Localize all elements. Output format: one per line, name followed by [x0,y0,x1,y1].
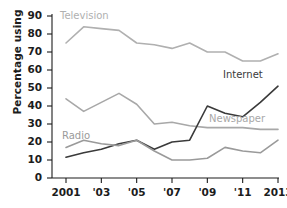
x-tick-label: '11 [223,186,263,198]
y-tick-label: 10 [20,153,42,165]
line-chart: Percentage using 9080706050403020100 200… [0,0,287,208]
axis-lines [52,14,279,178]
series-line-television [66,27,278,61]
x-tick-label: '03 [81,186,121,198]
y-tick-label: 50 [20,81,42,93]
plot-area [0,0,287,208]
series-label-internet: Internet [223,69,263,80]
x-tick-label: 2001 [46,186,86,198]
y-axis-ticks [47,16,52,178]
x-tick-label: '09 [187,186,227,198]
x-tick-label: '05 [117,186,157,198]
y-tick-label: 20 [20,135,42,147]
series-label-television: Television [60,10,109,21]
y-tick-label: 60 [20,63,42,75]
series-label-newspaper: Newspaper [209,113,265,124]
y-tick-label: 70 [20,45,42,57]
y-tick-label: 30 [20,117,42,129]
y-tick-label: 40 [20,99,42,111]
y-tick-label: 80 [20,27,42,39]
x-tick-label: 2013 [258,186,287,198]
x-axis-ticks [66,178,278,183]
y-tick-label: 90 [20,9,42,21]
x-tick-label: '07 [152,186,192,198]
series-lines [66,27,278,160]
y-tick-label: 0 [20,171,42,183]
series-label-radio: Radio [62,130,90,141]
